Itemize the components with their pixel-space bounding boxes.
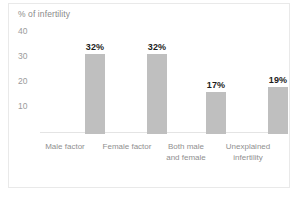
x-category-line: Unexplained [215, 141, 281, 152]
bar-male-factor [85, 54, 105, 134]
x-category-label-male-factor: Male factor [32, 141, 98, 152]
x-category-label-unexplained-infertility: Unexplained infertility [215, 141, 281, 163]
bar-both-male-and-female [206, 92, 226, 135]
bar-value-label-male-factor: 32% [66, 42, 124, 52]
y-tick-label-30: 30 [18, 52, 40, 61]
bar-group-female-factor [128, 54, 186, 134]
bar-female-factor [147, 54, 167, 134]
bar-group-male-factor [66, 54, 124, 134]
bar-unexplained-infertility [268, 87, 288, 135]
x-category-line: infertility [215, 152, 281, 163]
x-category-line: and female [153, 152, 219, 163]
bar-value-label-unexplained-infertility: 19% [249, 75, 304, 85]
x-category-line: Female factor [94, 141, 160, 152]
x-category-label-female-factor: Female factor [94, 141, 160, 152]
y-axis-title: % of infertility [18, 9, 70, 19]
bar-chart-figure: % of infertility 40 30 20 10 32% 32% 17%… [0, 0, 304, 199]
y-tick-label-40: 40 [18, 27, 40, 36]
plot-area: 32% 32% 17% 19% [40, 24, 280, 134]
y-tick-label-10: 10 [18, 102, 40, 111]
x-category-label-both-male-and-female: Both male and female [153, 141, 219, 163]
bar-value-label-female-factor: 32% [128, 42, 186, 52]
bar-group-both-male-and-female [187, 92, 245, 135]
y-tick-label-20: 20 [18, 77, 40, 86]
x-category-line: Male factor [32, 141, 98, 152]
bar-group-unexplained-infertility [249, 87, 304, 135]
x-category-line: Both male [153, 141, 219, 152]
bar-value-label-both-male-and-female: 17% [187, 80, 245, 90]
